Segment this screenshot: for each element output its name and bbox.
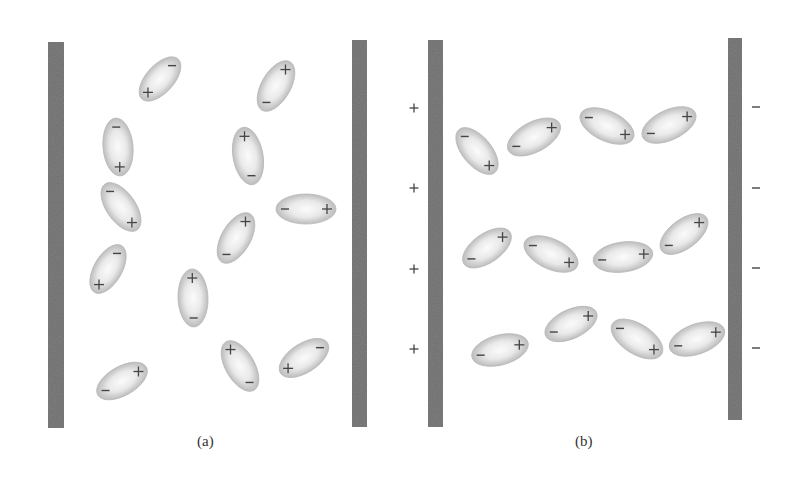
molecule-body [518,228,583,280]
molecule-body [209,207,262,270]
polar-molecule [208,331,273,401]
polar-molecule [177,268,209,327]
molecule-body [93,176,149,239]
polar-molecule [516,226,585,286]
polar-molecule [243,51,308,121]
polar-molecule [468,327,532,372]
molecule-body [91,354,154,407]
capacitor-plate [352,40,367,427]
plate-plus-charge-icon [410,265,419,274]
plate-plus-charge-icon [410,184,419,193]
molecule-body [591,238,655,276]
polar-molecule [647,197,719,267]
molecule-body [273,331,336,386]
polar-molecule [498,103,569,167]
capacitor-plate [48,42,64,428]
molecule-body [213,335,266,398]
molecule-body [604,311,669,367]
polar-molecule [77,236,140,304]
polar-molecule [600,306,673,375]
molecule-body [249,55,302,118]
molecule-body [636,99,701,151]
capacitor-plate [428,40,443,427]
polar-molecule [228,125,268,187]
plate-plus-charge-icon [410,345,419,354]
molecule-body [665,315,730,363]
polar-molecule [450,212,522,281]
caption-b: (b) [575,433,593,450]
polar-molecule [537,293,604,351]
polar-molecule [86,347,155,411]
polar-molecule [276,194,336,224]
polar-molecule [101,117,136,177]
molecule-body [468,328,532,372]
dielectric-polarization-diagram [0,0,806,483]
polar-molecule [126,44,196,115]
polar-molecule [572,98,641,158]
caption-a: (a) [197,433,214,450]
molecule-body [653,206,715,263]
panel-b-polarized [410,38,761,427]
molecule-body [228,125,268,187]
plate-plus-charge-icon [410,104,419,113]
polar-molecule [203,203,268,273]
molecule-body [456,220,519,276]
panel-a-unpolarized [48,40,367,428]
polar-molecule [634,93,703,153]
molecule-body [539,299,602,349]
polar-molecule [270,326,341,393]
polar-molecule [663,311,729,363]
molecule-body [501,110,566,164]
polar-molecule [440,115,512,188]
molecule-body [574,100,639,152]
polar-molecule [591,238,655,276]
molecule-body [448,120,506,182]
capacitor-plate [728,38,742,420]
molecule-body [82,239,133,300]
molecule-body [132,50,189,109]
polar-molecule [85,171,155,243]
molecule-body [101,117,136,177]
